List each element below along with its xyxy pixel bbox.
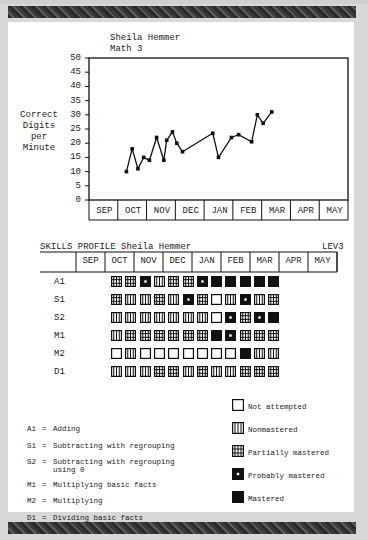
mastery-cell-P	[168, 330, 179, 341]
mastery-cell-Pr	[225, 312, 236, 323]
y-tick-label: 50	[67, 53, 81, 63]
mastery-cell-N	[183, 312, 194, 323]
y-tick-label: 30	[67, 110, 81, 120]
mastery-cell-P	[183, 330, 194, 341]
legend-label: Not attempted	[248, 402, 307, 412]
x-month-label: MAY	[322, 206, 347, 216]
key-code: M2	[27, 496, 36, 506]
mastery-cell-N	[154, 312, 165, 323]
y-tick-label: 10	[67, 167, 81, 177]
x-month-label: MAR	[265, 206, 290, 216]
mastery-cell-P	[154, 330, 165, 341]
x-month-label: FEB	[236, 206, 261, 216]
mastery-cell-P	[154, 366, 165, 377]
mastery-cell-P	[268, 330, 279, 341]
mastery-cell-P	[111, 276, 122, 287]
skill-code-label: S2	[54, 313, 65, 323]
key-description: Multiplying basic facts	[53, 480, 157, 490]
y-tick-label: 40	[67, 81, 81, 91]
mastery-cell-Na	[197, 348, 208, 359]
mastery-cell-N	[254, 348, 265, 359]
decorative-band-bottom	[8, 522, 356, 534]
key-code: S1	[27, 441, 36, 451]
mastery-cell-N	[254, 294, 265, 305]
mastery-cell-P	[197, 366, 208, 377]
mastery-cell-M	[268, 312, 279, 323]
mastery-cell-N	[225, 366, 236, 377]
mastery-cell-Pr	[232, 468, 244, 480]
mastery-cell-Pr	[254, 312, 265, 323]
mastery-cell-P	[197, 330, 208, 341]
x-month-label: NOV	[150, 206, 175, 216]
mastery-cell-P	[168, 366, 179, 377]
mastery-cell-N	[225, 294, 236, 305]
mastery-cell-Na	[111, 348, 122, 359]
skills-month-label: SEP	[78, 256, 103, 266]
mastery-cell-Na	[211, 348, 222, 359]
key-description: Subtracting with regrouping	[53, 441, 175, 451]
mastery-cell-N	[111, 312, 122, 323]
skills-month-label: JAN	[194, 256, 219, 266]
mastery-cell-P	[232, 445, 244, 457]
mastery-cell-M	[240, 348, 251, 359]
skills-month-label: APR	[281, 256, 306, 266]
mastery-cell-M	[254, 276, 265, 287]
mastery-cell-P	[240, 312, 251, 323]
mastery-cell-Pr	[225, 330, 236, 341]
mastery-cell-P	[240, 330, 251, 341]
skills-month-label: NOV	[136, 256, 161, 266]
mastery-cell-Na	[183, 348, 194, 359]
skills-month-label: MAY	[310, 256, 335, 266]
mastery-cell-N	[232, 422, 244, 434]
key-description: Multiplying	[53, 496, 103, 506]
y-tick-label: 0	[67, 195, 81, 205]
mastery-cell-N	[125, 348, 136, 359]
mastery-cell-N	[197, 312, 208, 323]
key-code: S2	[27, 457, 36, 467]
key-equals: =	[42, 424, 47, 434]
key-description-cont: using 0	[53, 465, 85, 475]
mastery-cell-P	[197, 294, 208, 305]
skill-code-label: D1	[54, 367, 65, 377]
key-code: A1	[27, 424, 36, 434]
mastery-cell-Pr	[197, 276, 208, 287]
mastery-cell-P	[140, 330, 151, 341]
mastery-cell-N	[140, 366, 151, 377]
y-tick-label: 5	[67, 181, 81, 191]
mastery-cell-Na	[211, 312, 222, 323]
mastery-cell-N	[125, 366, 136, 377]
skill-code-label: S1	[54, 295, 65, 305]
skill-code-label: M1	[54, 331, 65, 341]
key-equals: =	[42, 457, 47, 467]
mastery-cell-M	[225, 276, 236, 287]
skills-month-label: MAR	[252, 256, 277, 266]
mastery-cell-P	[268, 294, 279, 305]
mastery-cell-Na	[168, 348, 179, 359]
mastery-cell-N	[140, 294, 151, 305]
mastery-cell-P	[154, 294, 165, 305]
skills-month-label: OCT	[107, 256, 132, 266]
key-code: M1	[27, 480, 36, 490]
mastery-cell-Pr	[240, 294, 251, 305]
mastery-cell-Pr	[183, 294, 194, 305]
mastery-cell-P	[254, 330, 265, 341]
key-description: Adding	[53, 424, 80, 434]
legend-label: Nonmastered	[248, 425, 298, 435]
key-equals: =	[42, 480, 47, 490]
y-tick-label: 20	[67, 138, 81, 148]
mastery-cell-Na	[154, 348, 165, 359]
key-description: Dividing basic facts	[53, 513, 143, 523]
mastery-cell-Pr	[140, 276, 151, 287]
mastery-cell-N	[111, 366, 122, 377]
legend-label: Mastered	[248, 494, 284, 504]
key-equals: =	[42, 513, 47, 523]
mastery-cell-N	[140, 312, 151, 323]
mastery-cell-M	[240, 276, 251, 287]
y-tick-label: 25	[67, 124, 81, 134]
x-month-label: OCT	[121, 206, 146, 216]
mastery-cell-Na	[232, 399, 244, 411]
mastery-cell-P	[168, 276, 179, 287]
skill-code-label: A1	[54, 277, 65, 287]
y-tick-label: 45	[67, 67, 81, 77]
mastery-cell-P	[125, 276, 136, 287]
